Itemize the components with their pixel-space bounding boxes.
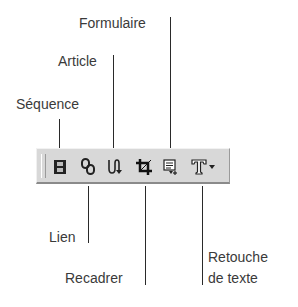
dropdown-arrow-icon: [208, 164, 216, 170]
label-recadrer: Recadrer: [65, 270, 123, 286]
article-flow-icon: [106, 158, 124, 176]
sequence-button[interactable]: [49, 156, 71, 178]
leader-line-article: [113, 55, 114, 149]
label-retouche-line2: de texte: [208, 270, 258, 286]
leader-line-sequence: [59, 119, 60, 149]
toolbar-grip[interactable]: [41, 154, 46, 178]
lien-button[interactable]: [77, 156, 99, 178]
leader-line-formulaire: [170, 17, 171, 149]
label-retouche-line1: Retouche: [208, 249, 268, 265]
toolbar: [36, 148, 230, 184]
form-icon: [162, 158, 180, 176]
recadrer-button[interactable]: [133, 156, 155, 178]
label-lien: Lien: [49, 229, 75, 245]
leader-line-recadrer: [145, 186, 146, 285]
film-strip-icon: [52, 159, 68, 175]
dropdown-button[interactable]: [206, 156, 218, 178]
formulaire-button[interactable]: [160, 156, 182, 178]
leader-line-lien: [88, 186, 89, 243]
crop-icon: [135, 158, 153, 176]
article-button[interactable]: [104, 156, 126, 178]
leader-line-retouche: [202, 186, 203, 285]
label-sequence: Séquence: [16, 96, 79, 112]
label-formulaire: Formulaire: [79, 15, 146, 31]
chain-link-icon: [80, 158, 96, 176]
label-article: Article: [58, 53, 97, 69]
